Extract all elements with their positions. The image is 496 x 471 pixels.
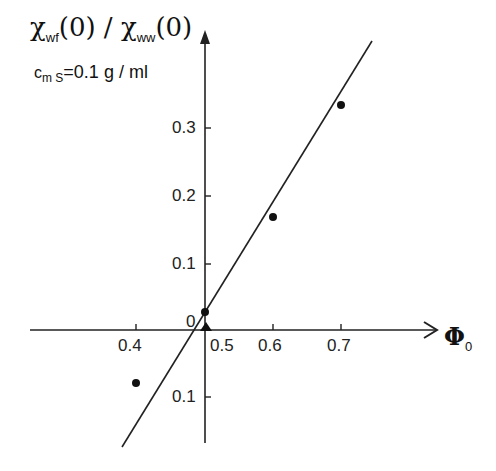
y-tick-label: 0.3 [172,118,196,138]
data-point [132,379,140,387]
data-point [337,101,345,109]
x-tick-label: 0.5 [210,336,234,356]
y-axis-title: χwf(0) / χww(0) [30,12,192,45]
triangle-point-icon [200,322,212,331]
x-tick-label: 0.4 [118,336,142,356]
y-axis-arrow-icon [200,30,210,44]
y-ticks [205,128,211,397]
x-tick-label: 0.7 [327,336,351,356]
origin-label: 0 [186,312,195,332]
y-tick-label-negative: 0.1 [172,387,196,407]
data-point [269,213,277,221]
x-axis-title: Φ0 [444,322,472,354]
data-points [132,101,345,387]
x-ticks [136,324,341,330]
x-tick-label: 0.6 [258,336,282,356]
fit-line [122,41,372,447]
y-tick-label: 0.1 [172,254,196,274]
y-tick-label: 0.2 [172,186,196,206]
data-point [201,308,209,316]
condition-annotation: cm S=0.1 g / ml [34,62,148,85]
